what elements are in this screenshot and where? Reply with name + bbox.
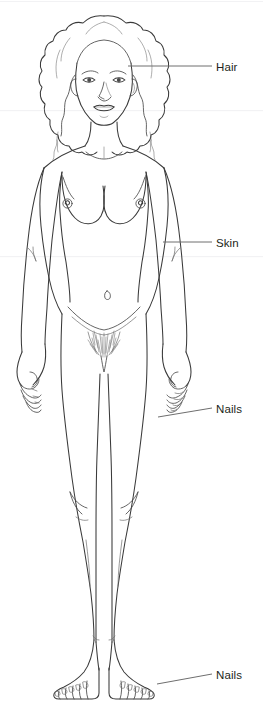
pubic-region	[88, 331, 120, 372]
right-foot	[109, 640, 154, 699]
pubic-hair	[88, 331, 120, 357]
leader-nails-hand	[158, 408, 212, 417]
leader-nails-foot	[157, 674, 212, 684]
left-hand	[17, 344, 46, 412]
anatomy-figure: .ln { fill:none; stroke:#3a3a3a; stroke-…	[0, 0, 263, 705]
label-skin: Skin	[216, 238, 239, 250]
torso	[40, 168, 168, 335]
left-foot	[54, 640, 99, 699]
right-hand	[162, 344, 191, 412]
anatomy-illustration-canvas: .ln { fill:none; stroke:#3a3a3a; stroke-…	[0, 0, 263, 705]
legs	[61, 314, 147, 642]
hair-outline	[39, 16, 170, 160]
leader-lines	[128, 66, 212, 684]
label-nails-hand: Nails	[216, 404, 242, 416]
label-hair: Hair	[216, 62, 238, 74]
face	[71, 63, 138, 125]
label-nails-foot: Nails	[216, 670, 242, 682]
